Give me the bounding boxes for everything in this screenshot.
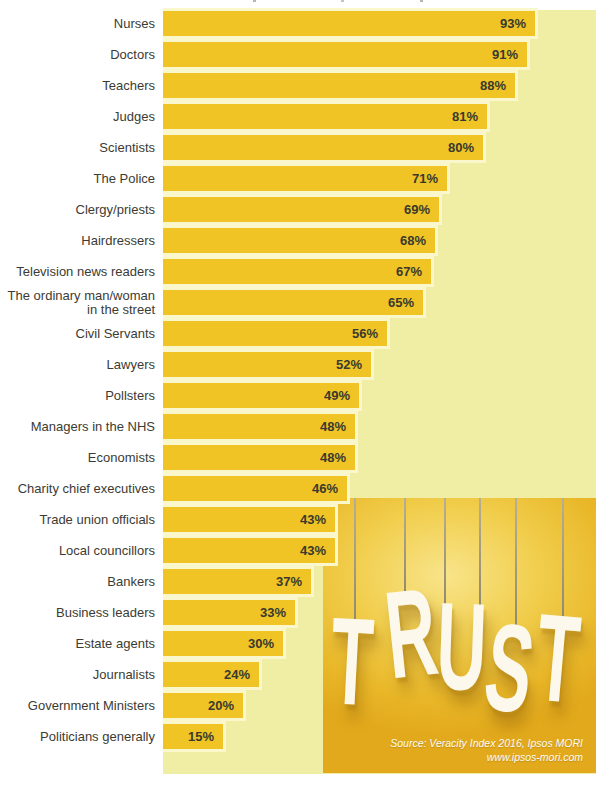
bar-value-label: 20% [208,698,243,713]
bar-value-label: 67% [396,264,431,279]
bar-outline: 48% [163,442,358,473]
bar: 48% [163,445,355,470]
bar-outline: 65% [163,287,426,318]
category-label: Business leaders [0,606,163,620]
bar-outline: 52% [163,349,374,380]
bar: 80% [163,135,483,160]
bar-value-label: 68% [400,233,435,248]
bar-row: Lawyers52% [0,349,610,380]
bar: 52% [163,352,371,377]
category-label: Civil Servants [0,327,163,341]
bar-value-label: 81% [452,109,487,124]
category-label: Estate agents [0,637,163,651]
bar-outline: 15% [163,721,226,752]
bar-outline: 69% [163,194,442,225]
bar-value-label: 56% [352,326,387,341]
bar-row: Business leaders33% [0,597,610,628]
bar: 15% [163,724,223,749]
bar-value-label: 80% [448,140,483,155]
bar-value-label: 93% [500,16,535,31]
category-label: The ordinary man/woman in the street [0,289,163,317]
bar-row: Government Ministers20% [0,690,610,721]
bar-value-label: 48% [320,419,355,434]
category-label: Hairdressers [0,234,163,248]
bar: 20% [163,693,243,718]
bar-value-label: 48% [320,450,355,465]
bar-outline: 43% [163,504,338,535]
bar-row: Estate agents30% [0,628,610,659]
category-label: Clergy/priests [0,203,163,217]
bar: 43% [163,507,335,532]
bar-value-label: 52% [336,357,371,372]
bar-row: Local councillors43% [0,535,610,566]
bar-outline: 49% [163,380,362,411]
bar: 49% [163,383,359,408]
bar-outline: 30% [163,628,286,659]
category-label: Government Ministers [0,699,163,713]
bar-value-label: 49% [324,388,359,403]
bar-row: Pollsters49% [0,380,610,411]
bar-outline: 48% [163,411,358,442]
bar: 33% [163,600,295,625]
source-line-2: www.ipsos-mori.com [390,750,583,764]
cropped-title-remnant [253,0,256,2]
category-label: Charity chief executives [0,482,163,496]
category-label: Doctors [0,48,163,62]
bar: 68% [163,228,435,253]
bar-row: Trade union officials43% [0,504,610,535]
trust-chart-page: TRUST Source: Veracity Index 2016, Ipsos… [0,0,610,787]
bar-value-label: 69% [404,202,439,217]
bar: 88% [163,73,515,98]
bar-outline: 46% [163,473,350,504]
bar-row: Civil Servants56% [0,318,610,349]
bar-row: Television news readers67% [0,256,610,287]
bar: 30% [163,631,283,656]
bar-row: Judges81% [0,101,610,132]
bar-row: The Police71% [0,163,610,194]
bar-rows-container: Nurses93%Doctors91%Teachers88%Judges81%S… [0,8,610,752]
category-label: Trade union officials [0,513,163,527]
bar-value-label: 88% [480,78,515,93]
category-label: Judges [0,110,163,124]
bar-row: Managers in the NHS48% [0,411,610,442]
category-label: Bankers [0,575,163,589]
bar: 67% [163,259,431,284]
bar-value-label: 30% [248,636,283,651]
category-label: Teachers [0,79,163,93]
bar-outline: 24% [163,659,262,690]
category-label: Television news readers [0,265,163,279]
bar: 65% [163,290,423,315]
bar: 81% [163,104,487,129]
bar-outline: 67% [163,256,434,287]
bar-row: Nurses93% [0,8,610,39]
category-label: Politicians generally [0,730,163,744]
category-label: Nurses [0,17,163,31]
bar: 56% [163,321,387,346]
bar-row: Doctors91% [0,39,610,70]
bar-outline: 71% [163,163,450,194]
bar: 37% [163,569,311,594]
bar-value-label: 91% [492,47,527,62]
bar-outline: 91% [163,39,530,70]
bar-value-label: 24% [224,667,259,682]
category-label: Lawyers [0,358,163,372]
bar-row: Teachers88% [0,70,610,101]
bar-value-label: 33% [260,605,295,620]
bar-value-label: 43% [300,543,335,558]
category-label: Managers in the NHS [0,420,163,434]
bar-outline: 93% [163,8,538,39]
bar-value-label: 71% [412,171,447,186]
bar-row: Hairdressers68% [0,225,610,256]
bar: 93% [163,11,535,36]
bar-outline: 20% [163,690,246,721]
bar-row: Politicians generally15% [0,721,610,752]
bar-row: Economists48% [0,442,610,473]
bar-value-label: 15% [188,729,223,744]
category-label: Economists [0,451,163,465]
bar-row: Charity chief executives46% [0,473,610,504]
bar-outline: 56% [163,318,390,349]
category-label: Pollsters [0,389,163,403]
bar: 43% [163,538,335,563]
bar-outline: 68% [163,225,438,256]
bar-value-label: 46% [312,481,347,496]
